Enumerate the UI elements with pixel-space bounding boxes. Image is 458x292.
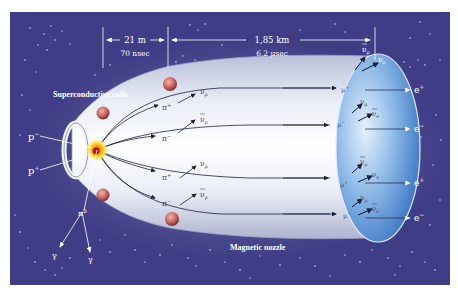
distance-2-length: 1,85 km (255, 35, 290, 45)
coil-icon (163, 77, 177, 91)
coils-label: Superconductive coils (53, 90, 127, 99)
coil-icon (165, 212, 179, 226)
gamma-label-1: γ (52, 251, 57, 260)
nozzle-label: Magnetic nozzle (230, 243, 286, 252)
distance-1-time: 70 nsec (120, 49, 149, 58)
distance-1-length: 21 m (124, 35, 146, 45)
distance-2-time: 6,2 µsec (256, 49, 288, 58)
gamma-label-2: γ (88, 255, 93, 264)
muon-collider-diagram: 21 m 70 nsec 1,85 km 6,2 µsec Supercondu… (0, 0, 458, 292)
coil-icon (97, 189, 110, 202)
coil-icon (97, 107, 110, 120)
